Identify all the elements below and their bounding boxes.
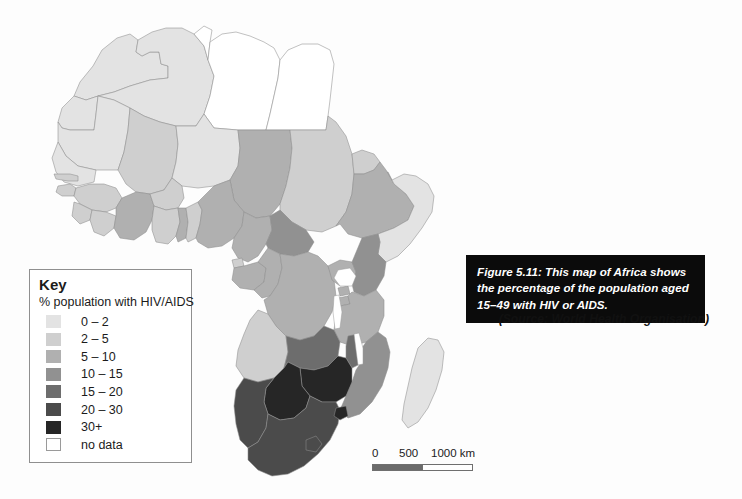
region-liberia: [90, 210, 116, 236]
legend-item-15-20: 15 – 20: [39, 383, 183, 401]
legend-swatch-icon: [46, 368, 61, 381]
legend-item-no-data: no data: [39, 436, 183, 454]
legend-item-label: 20 – 30: [81, 403, 123, 417]
region-guinea-bissau: [56, 184, 76, 196]
hiv-aids-africa-map-figure: Key % population with HIV/AIDS 0 – 2 2 –…: [0, 0, 742, 499]
region-ghana: [152, 206, 180, 244]
legend-item-label: 2 – 5: [81, 332, 109, 346]
region-sudan: [280, 116, 354, 232]
map-scale-bar: 0 500 1000 km: [372, 447, 490, 471]
legend-item-label: no data: [81, 438, 123, 452]
legend-swatch-icon: [46, 385, 61, 398]
legend-item-0-2: 0 – 2: [39, 313, 183, 331]
scale-tick-0: 0: [372, 447, 378, 459]
legend-swatch-icon: [46, 403, 61, 416]
scale-tick-500: 500: [399, 447, 418, 459]
legend-title: Key: [39, 277, 183, 294]
legend-swatch-icon: [46, 438, 61, 451]
region-western-sahara: [58, 96, 98, 130]
legend-item-label: 5 – 10: [81, 350, 116, 364]
figure-source-text: (Source: World Health Organisation): [466, 312, 709, 326]
scale-bar-segment-light: [423, 465, 472, 470]
region-libya: [204, 32, 280, 130]
legend-item-2-5: 2 – 5: [39, 330, 183, 348]
region-madagascar: [402, 338, 444, 428]
scale-bar-segment-dark: [373, 465, 423, 470]
region-rwanda: [338, 286, 350, 296]
map-legend: Key % population with HIV/AIDS 0 – 2 2 –…: [29, 269, 192, 463]
scale-tick-1000: 1000 km: [431, 447, 475, 459]
scale-bar-graphic: [372, 464, 473, 471]
legend-swatch-icon: [46, 350, 61, 363]
legend-item-10-15: 10 – 15: [39, 366, 183, 384]
legend-item-label: 10 – 15: [81, 367, 123, 381]
legend-swatch-icon: [46, 333, 61, 346]
legend-swatch-icon: [46, 315, 61, 328]
legend-subtitle: % population with HIV/AIDS: [39, 295, 183, 310]
legend-item-5-10: 5 – 10: [39, 348, 183, 366]
legend-rows: 0 – 2 2 – 5 5 – 10 10 – 15 15 – 20 20 –: [39, 313, 183, 454]
legend-item-label: 0 – 2: [81, 315, 109, 329]
legend-item-label: 15 – 20: [81, 385, 123, 399]
legend-item-30-plus: 30+: [39, 418, 183, 436]
legend-item-20-30: 20 – 30: [39, 401, 183, 419]
region-gambia: [54, 174, 78, 181]
legend-swatch-icon: [46, 421, 61, 434]
scale-bar-labels: 0 500 1000 km: [372, 447, 490, 462]
figure-caption-text: Figure 5.11: This map of Africa shows th…: [477, 264, 694, 313]
legend-item-label: 30+: [81, 420, 102, 434]
